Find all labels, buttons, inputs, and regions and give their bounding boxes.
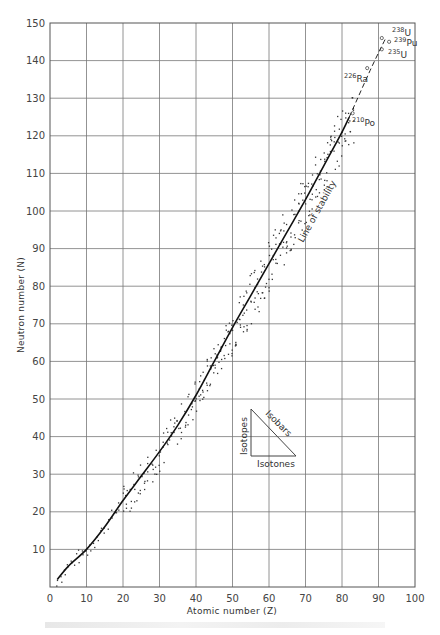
svg-text:150: 150 — [26, 18, 45, 29]
svg-text:50: 50 — [226, 593, 239, 604]
po210-label: 210Po — [352, 116, 376, 128]
svg-text:130: 130 — [26, 93, 45, 104]
svg-text:40: 40 — [32, 431, 45, 442]
isobars-label: Isobars — [264, 408, 294, 438]
stable-nuclide-dots — [56, 97, 355, 587]
isotopes-label: Isotopes — [239, 417, 249, 455]
pu239-label: 239Pu — [394, 36, 417, 48]
svg-text:0: 0 — [47, 593, 53, 604]
svg-text:120: 120 — [26, 130, 45, 141]
svg-text:10: 10 — [80, 593, 93, 604]
svg-text:40: 40 — [190, 593, 203, 604]
svg-text:100: 100 — [26, 206, 45, 217]
svg-text:20: 20 — [32, 506, 45, 517]
svg-text:90: 90 — [32, 243, 45, 254]
svg-text:50: 50 — [32, 394, 45, 405]
svg-text:90: 90 — [372, 593, 385, 604]
svg-text:70: 70 — [299, 593, 312, 604]
isotones-label: Isotones — [257, 459, 295, 469]
grid — [50, 23, 415, 587]
svg-text:10: 10 — [32, 544, 45, 555]
svg-text:80: 80 — [336, 593, 349, 604]
x-axis-title: Atomic number (Z) — [187, 606, 277, 616]
ra226-label: 226Ra — [344, 72, 368, 84]
svg-text:110: 110 — [26, 168, 45, 179]
svg-text:30: 30 — [32, 469, 45, 480]
isotope-legend-triangle: Isotopes Isobars Isotones — [239, 408, 296, 469]
svg-text:60: 60 — [263, 593, 276, 604]
figure-caption-faded — [45, 622, 385, 628]
y-axis-title: Neutron number (N) — [16, 257, 26, 353]
svg-text:30: 30 — [153, 593, 166, 604]
svg-text:100: 100 — [405, 593, 424, 604]
svg-text:140: 140 — [26, 55, 45, 66]
neutron-proton-chart: 0102030405060708090100102030405060708090… — [0, 0, 440, 635]
svg-text:70: 70 — [32, 318, 45, 329]
tick-labels: 0102030405060708090100102030405060708090… — [26, 18, 425, 605]
svg-text:20: 20 — [117, 593, 130, 604]
svg-text:60: 60 — [32, 356, 45, 367]
svg-text:80: 80 — [32, 281, 45, 292]
u235-label: 235U — [388, 48, 407, 60]
